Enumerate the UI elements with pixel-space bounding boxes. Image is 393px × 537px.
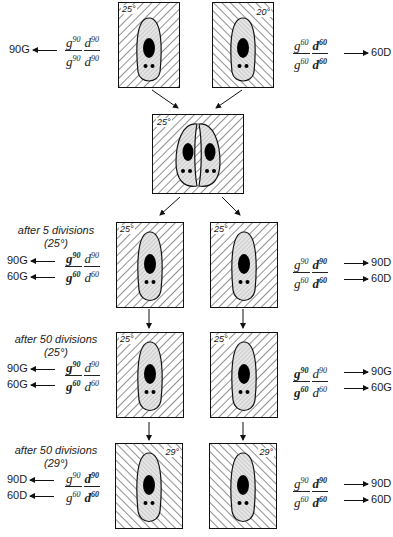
serotype-output: 60D: [344, 493, 391, 506]
genotype-formula-right: g90g60d90d60: [292, 474, 329, 509]
row-caption: after 50 divisions(29°): [2, 444, 110, 470]
arrow-right-icon: [344, 275, 368, 283]
arrow-left-icon: [31, 365, 55, 373]
arrow-left-icon: [30, 492, 54, 500]
row-caption: after 5 divisions(25°): [2, 224, 110, 250]
temperature-label: 25°: [119, 335, 135, 344]
genotype-formula-right: g60g60d60d60: [292, 36, 329, 71]
paramecium-cell-icon: [116, 222, 184, 308]
serotype-output: 90D: [344, 477, 391, 490]
serotype-output: 60D: [344, 46, 391, 59]
serotype-output: 90D: [7, 473, 54, 486]
temperature-label: 25°: [119, 225, 135, 234]
arrow-left-icon: [31, 257, 55, 265]
conjugating-pair: 25°: [152, 114, 244, 194]
progeny-cell-right: 25°: [210, 332, 278, 418]
temperature-label: 25°: [156, 118, 172, 127]
progeny-cell-left: 29°: [115, 443, 183, 529]
serotype-output: 60D: [344, 272, 391, 285]
genotype-formula-right: g90g60d90d60: [292, 255, 329, 290]
temperature-label: 25°: [213, 335, 229, 344]
arrow-right-icon: [344, 480, 368, 488]
serotype-output: 60G: [7, 378, 55, 391]
progeny-cell-left: 25°: [116, 222, 184, 308]
parent-cell-right: 20°: [212, 2, 274, 88]
genotype-formula-left: g90g60d90d60: [64, 249, 101, 284]
serotype-output: 90G: [9, 43, 57, 56]
genotype-formula-right: g90g60d90d60: [292, 364, 329, 399]
paramecium-cell-icon: [210, 332, 278, 418]
parent-cell-left: 25°: [118, 2, 180, 88]
paramecium-cell-icon: [210, 222, 278, 308]
temperature-label: 29°: [164, 448, 180, 457]
arrow-right-icon: [344, 259, 368, 267]
progeny-cell-right: 29°: [209, 443, 277, 529]
arrow-left-icon: [33, 46, 57, 54]
arrow-right-icon: [344, 49, 368, 57]
paramecium-cell-icon: [118, 2, 180, 88]
genotype-formula-left: g90g60d90d60: [64, 469, 101, 504]
arrow-right-icon: [344, 368, 368, 376]
serotype-output: 90G: [7, 254, 55, 267]
genotype-formula-left: g90g90d90d90: [64, 33, 101, 68]
temperature-label: 25°: [213, 225, 229, 234]
serotype-output: 60G: [344, 381, 392, 394]
paramecium-cell-icon: [116, 332, 184, 418]
progeny-cell-right: 25°: [210, 222, 278, 308]
arrow-right-icon: [344, 496, 368, 504]
serotype-output: 90G: [344, 365, 392, 378]
row-caption: after 50 divisions(25°): [2, 333, 110, 359]
temperature-label: 29°: [258, 448, 274, 457]
progeny-cell-left: 25°: [116, 332, 184, 418]
arrow-left-icon: [31, 273, 55, 281]
serotype-output: 90D: [344, 256, 391, 269]
arrow-left-icon: [30, 476, 54, 484]
serotype-output: 60D: [7, 489, 54, 502]
serotype-output: 90G: [7, 362, 55, 375]
genotype-formula-left: g90g60d90d60: [64, 358, 101, 393]
temperature-label: 20°: [255, 8, 271, 17]
arrow-left-icon: [31, 381, 55, 389]
serotype-output: 60G: [7, 270, 55, 283]
arrow-right-icon: [344, 384, 368, 392]
temperature-label: 25°: [121, 5, 137, 14]
